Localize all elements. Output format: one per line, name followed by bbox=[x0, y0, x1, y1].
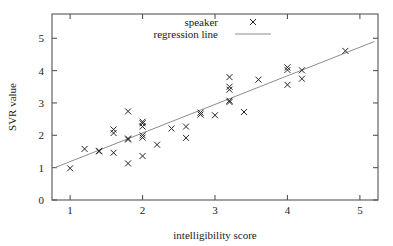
plot-frame bbox=[52, 14, 378, 200]
legend-label-regression-line: regression line bbox=[154, 28, 219, 40]
x-tick-label: 4 bbox=[285, 204, 291, 216]
data-point-marker bbox=[255, 77, 261, 83]
data-point-marker bbox=[226, 99, 232, 105]
data-point-marker bbox=[226, 74, 232, 80]
y-tick-label: 4 bbox=[39, 65, 45, 77]
y-tick-label: 1 bbox=[39, 162, 45, 174]
data-point-marker bbox=[125, 160, 131, 166]
y-tick-label: 2 bbox=[39, 129, 45, 141]
data-point-marker bbox=[140, 153, 146, 159]
x-tick-label: 1 bbox=[67, 204, 73, 216]
data-point-marker bbox=[212, 112, 218, 118]
data-point-marker bbox=[154, 142, 160, 148]
x-tick-label: 3 bbox=[212, 204, 218, 216]
y-tick-label: 5 bbox=[39, 32, 45, 44]
data-point-marker bbox=[111, 150, 117, 156]
data-point-marker bbox=[226, 84, 232, 90]
x-tick-label: 2 bbox=[140, 204, 146, 216]
chart-legend: speakerregression line bbox=[154, 16, 271, 40]
data-point-marker bbox=[169, 126, 175, 132]
plot-canvas: 12345 012345 speakerregression line inte… bbox=[0, 0, 393, 246]
x-axis-title: intelligibility score bbox=[173, 229, 257, 241]
regression-line-path bbox=[56, 41, 375, 167]
data-point-marker bbox=[284, 82, 290, 88]
y-axis-ticks: 012345 bbox=[39, 32, 379, 206]
data-point-marker bbox=[125, 136, 131, 142]
x-tick-label: 5 bbox=[357, 204, 363, 216]
legend-marker-icon bbox=[250, 19, 256, 25]
data-point-marker bbox=[111, 130, 117, 136]
data-points-speaker bbox=[67, 48, 348, 171]
y-tick-label: 0 bbox=[39, 194, 45, 206]
plot-border bbox=[52, 14, 378, 200]
regression-line bbox=[56, 41, 375, 167]
data-point-marker bbox=[183, 124, 189, 130]
data-point-marker bbox=[67, 165, 73, 171]
data-point-marker bbox=[183, 135, 189, 141]
data-point-marker bbox=[125, 108, 131, 114]
y-tick-label: 3 bbox=[39, 97, 45, 109]
data-point-marker bbox=[299, 76, 305, 82]
legend-label-speaker: speaker bbox=[184, 16, 218, 28]
data-point-marker bbox=[82, 146, 88, 152]
data-point-marker bbox=[140, 124, 146, 130]
scatter-plot-figure: 12345 012345 speakerregression line inte… bbox=[0, 0, 393, 246]
data-point-marker bbox=[299, 67, 305, 73]
y-axis-title: SVR value bbox=[6, 83, 18, 131]
data-point-marker bbox=[241, 109, 247, 115]
data-point-marker bbox=[226, 87, 232, 93]
